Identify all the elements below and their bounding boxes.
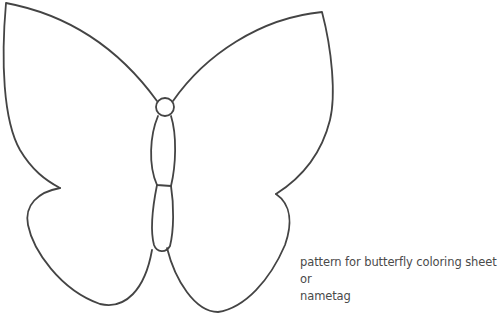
butterfly-head (156, 98, 174, 116)
butterfly-thorax (151, 116, 175, 186)
left-lower-wing (27, 188, 152, 305)
caption-text: pattern for butterfly coloring sheet or … (300, 254, 500, 305)
right-upper-wing (173, 12, 333, 194)
caption-line-1: pattern for butterfly coloring sheet or (300, 254, 500, 288)
left-upper-wing (4, 3, 157, 188)
butterfly-abdomen (152, 185, 173, 251)
cut-off-footer-text (362, 310, 501, 318)
right-lower-wing (167, 194, 289, 312)
caption-line-2: nametag (300, 288, 500, 305)
